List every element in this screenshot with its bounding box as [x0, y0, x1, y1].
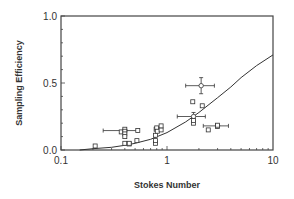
model-curve-line [80, 55, 273, 150]
data-point-square [123, 135, 127, 139]
data-point-square [136, 129, 140, 133]
data-point-square [159, 124, 163, 128]
data-point-square [123, 141, 127, 145]
data-point-square [159, 128, 163, 132]
data-point-square [155, 129, 159, 133]
data-point-mean [191, 114, 195, 118]
data-point-square [192, 119, 196, 123]
x-tick-label: 1 [164, 155, 170, 166]
data-point-square [154, 133, 158, 137]
data-point-square [154, 139, 158, 143]
x-axis-label: Stokes Number [134, 180, 201, 190]
sampling-efficiency-chart: 0.11100.00.51.0 Stokes Number Sampling E… [0, 0, 294, 199]
model-curve [80, 55, 273, 150]
plot-frame [61, 16, 273, 150]
axis-ticks: 0.11100.00.51.0 [43, 11, 279, 166]
data-point-square [93, 144, 97, 148]
x-tick-label: 10 [267, 155, 279, 166]
data-point-square [135, 139, 139, 143]
data-point-square [200, 104, 204, 108]
data-point-mean [199, 83, 203, 87]
plot-border [61, 16, 273, 150]
y-axis-label: Sampling Efficiency [14, 40, 24, 126]
x-tick-label: 0.1 [54, 155, 68, 166]
data-point-square [216, 123, 220, 127]
data-point-square [191, 100, 195, 104]
y-tick-label: 1.0 [43, 11, 57, 22]
data-points [93, 100, 219, 148]
y-tick-label: 0.5 [43, 78, 57, 89]
data-point-square [127, 141, 131, 145]
y-tick-label: 0.0 [43, 145, 57, 156]
axis-labels: Stokes Number Sampling Efficiency [14, 40, 201, 190]
data-point-square [206, 128, 210, 132]
error-bars [103, 78, 228, 133]
